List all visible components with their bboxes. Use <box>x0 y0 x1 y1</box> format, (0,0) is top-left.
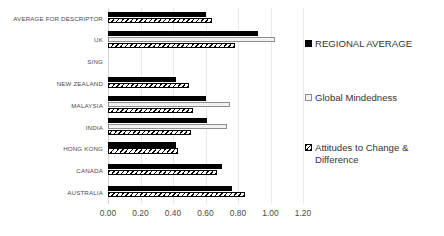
bar-regional-average <box>108 186 232 191</box>
x-tick-label: 0.00 <box>100 208 116 218</box>
plot-area: AVERAGE FOR DESCRIPTORUKSINGNEW ZEALANDM… <box>108 8 303 204</box>
bar-regional-average <box>108 31 258 36</box>
category-row: AVERAGE FOR DESCRIPTOR <box>108 8 303 30</box>
bar-regional-average <box>108 96 206 101</box>
category-row: MALAYSIA <box>108 95 303 117</box>
bar-regional-average <box>108 164 222 169</box>
bar-attitudes-to-change <box>108 83 189 88</box>
horizontal-bar-chart: AVERAGE FOR DESCRIPTORUKSINGNEW ZEALANDM… <box>0 0 444 236</box>
category-row: HONG KONG <box>108 139 303 161</box>
legend-item-global-mindedness: Global Mindedness <box>305 92 441 104</box>
category-label: AVERAGE FOR DESCRIPTOR <box>13 16 103 22</box>
category-label: UK <box>94 37 103 43</box>
bar-regional-average <box>108 142 176 147</box>
bar-attitudes-to-change <box>108 108 193 113</box>
bar-regional-average <box>108 12 206 17</box>
category-row: INDIA <box>108 117 303 139</box>
category-label: SING <box>87 59 103 65</box>
category-row: NEW ZEALAND <box>108 73 303 95</box>
category-label: NEW ZEALAND <box>57 81 103 87</box>
gridline <box>303 8 304 204</box>
x-tick-label: 0.40 <box>165 208 181 218</box>
bar-regional-average <box>108 77 176 82</box>
bar-global-mindedness <box>108 37 275 42</box>
global-mindedness-swatch-icon <box>305 94 312 101</box>
category-label: CANADA <box>76 168 103 174</box>
bar-global-mindedness <box>108 102 230 107</box>
category-label: HONG KONG <box>63 146 103 152</box>
category-label: AUSTRALIA <box>67 190 103 196</box>
bar-attitudes-to-change <box>108 170 217 175</box>
x-tick-label: 0.20 <box>132 208 148 218</box>
bar-attitudes-to-change <box>108 192 245 197</box>
bar-global-mindedness <box>108 124 227 129</box>
category-row: SING <box>108 52 303 74</box>
bar-regional-average <box>108 118 207 123</box>
x-axis-tick-labels: 0.000.200.400.600.801.001.20 <box>108 208 303 224</box>
category-row: AUSTRALIA <box>108 182 303 204</box>
category-row: CANADA <box>108 160 303 182</box>
category-row: UK <box>108 30 303 52</box>
legend-label-global-mindedness: Global Mindedness <box>315 92 397 104</box>
bar-attitudes-to-change <box>108 43 235 48</box>
x-tick-label: 0.60 <box>197 208 213 218</box>
bar-attitudes-to-change <box>108 18 212 23</box>
bar-attitudes-to-change <box>108 148 178 153</box>
bar-attitudes-to-change <box>108 130 191 135</box>
legend-item-attitudes: Attitudes to Change & Difference <box>305 142 441 166</box>
category-label: INDIA <box>86 125 103 131</box>
category-label: MALAYSIA <box>71 103 103 109</box>
x-tick-label: 0.80 <box>230 208 246 218</box>
chart-legend: REGIONAL AVERAGE Global Mindedness Attit… <box>305 0 444 236</box>
x-tick-label: 1.00 <box>262 208 278 218</box>
legend-label-attitudes: Attitudes to Change & Difference <box>315 142 441 166</box>
regional-average-swatch-icon <box>305 40 312 47</box>
legend-label-regional-average: REGIONAL AVERAGE <box>315 38 412 50</box>
attitudes-swatch-icon <box>305 144 312 151</box>
legend-item-regional-average: REGIONAL AVERAGE <box>305 38 441 50</box>
